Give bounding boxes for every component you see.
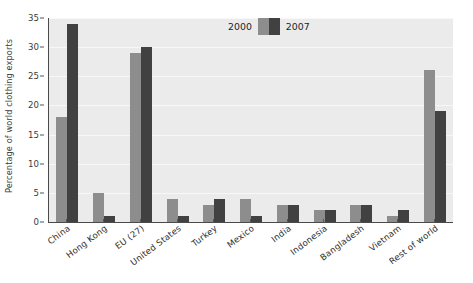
x-tick-mark (66, 219, 67, 223)
bar-group (380, 18, 417, 222)
legend-label-2000: 2000 (228, 21, 252, 32)
legend-swatch-2007 (269, 18, 280, 35)
bar-group (86, 18, 123, 222)
y-tick-mark (40, 134, 44, 135)
bar (214, 199, 225, 222)
bar (325, 210, 336, 222)
y-tick-label: 0 (34, 217, 39, 227)
bar-group (159, 18, 196, 222)
x-tick-label: EU (27) (113, 223, 146, 251)
bar-group (122, 18, 159, 222)
x-axis-tick-labels: ChinaHong KongEU (27)United StatesTurkey… (48, 223, 452, 283)
y-tick-label: 30 (28, 42, 39, 52)
bars-layer (49, 18, 453, 222)
x-tick-label: India (269, 223, 293, 244)
y-tick-mark (40, 76, 44, 77)
x-tick-label: Hong Kong (64, 223, 109, 260)
bar (361, 205, 372, 222)
x-tick-mark (360, 219, 361, 223)
bar (288, 205, 299, 222)
bar (104, 216, 115, 222)
y-axis-title: Percentage of world clothing exports (0, 0, 18, 232)
y-tick-label: 25 (28, 71, 39, 81)
y-tick-mark (40, 47, 44, 48)
x-tick-label: Turkey (190, 223, 219, 249)
bar (141, 47, 152, 222)
y-tick-label: 10 (28, 159, 39, 169)
y-tick-mark (40, 18, 44, 19)
bar-group (343, 18, 380, 222)
y-axis-title-text: Percentage of world clothing exports (4, 39, 14, 193)
y-tick-label: 20 (28, 100, 39, 110)
y-tick-label: 5 (34, 188, 39, 198)
bar-group (49, 18, 86, 222)
bar (398, 210, 409, 222)
y-tick-mark (40, 163, 44, 164)
bar (93, 193, 104, 222)
legend-label-2007: 2007 (286, 21, 310, 32)
plot-area (48, 18, 453, 223)
bar (56, 117, 67, 222)
x-tick-label: Mexico (225, 223, 256, 250)
bar (435, 111, 446, 222)
bar-group (196, 18, 233, 222)
bar-group (416, 18, 453, 222)
y-axis-tick-labels: 05101520253035 (18, 18, 44, 222)
bar (424, 70, 435, 222)
y-tick-mark (40, 105, 44, 106)
x-tick-label: China (46, 223, 72, 246)
x-tick-mark (323, 219, 324, 223)
y-tick-label: 15 (28, 130, 39, 140)
bar-group (233, 18, 270, 222)
x-tick-mark (213, 219, 214, 223)
bar (178, 216, 189, 222)
bar-group (269, 18, 306, 222)
chart-legend: 2000 2007 (228, 18, 310, 35)
legend-swatch-2000 (258, 18, 269, 35)
y-tick-mark (40, 192, 44, 193)
bar-group (306, 18, 343, 222)
bar-chart-figure: Percentage of world clothing exports 051… (0, 0, 473, 283)
bar (130, 53, 141, 222)
bar (67, 24, 78, 222)
y-tick-mark (40, 222, 44, 223)
y-tick-label: 35 (28, 13, 39, 23)
legend-swatch-pair (258, 18, 280, 35)
bar (251, 216, 262, 222)
